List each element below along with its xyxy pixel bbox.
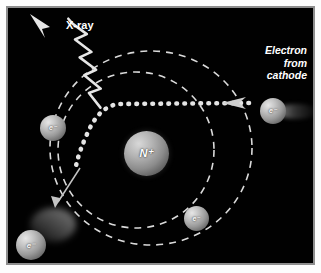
electron-ejected: e⁻ xyxy=(16,230,46,260)
electron-source-line-2: from xyxy=(265,57,307,70)
electron-source-line-3: cathode xyxy=(265,69,307,82)
electron-label: e⁻ xyxy=(40,115,66,141)
electron-source-line-1: Electron xyxy=(265,44,307,57)
x-ray-arrowhead xyxy=(30,14,50,38)
electron-orbital-bottom: e⁻ xyxy=(184,206,209,231)
ejected-electron-arrow xyxy=(51,168,80,208)
nucleus-label: N⁺ xyxy=(124,131,169,176)
x-ray-label: X-ray xyxy=(66,19,94,31)
electron-label: e⁻ xyxy=(16,230,46,260)
electron-source-label: Electron from cathode xyxy=(265,44,307,82)
electron-orbital-left: e⁻ xyxy=(40,115,66,141)
diagram-panel: N⁺ e⁻ e⁻ e⁻ e⁻ X-ray Electron from catho… xyxy=(8,8,313,263)
electron-label: e⁻ xyxy=(260,98,286,124)
nucleus-sphere: N⁺ xyxy=(124,131,169,176)
electron-incoming: e⁻ xyxy=(260,98,286,124)
electron-label: e⁻ xyxy=(184,206,209,231)
figure-container: N⁺ e⁻ e⁻ e⁻ e⁻ X-ray Electron from catho… xyxy=(0,0,321,273)
